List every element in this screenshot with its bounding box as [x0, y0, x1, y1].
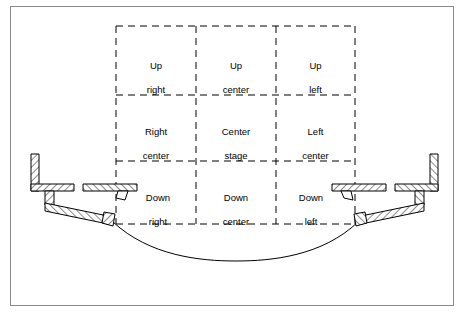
label-down-left-line2: left — [276, 216, 346, 228]
label-up-left-line1: Up — [276, 60, 355, 72]
label-left-center: Left center — [276, 114, 355, 174]
label-center-stage-line2: stage — [196, 150, 276, 162]
figure-canvas: Up right Up center Up left Right center … — [0, 0, 469, 332]
label-up-left-line2: left — [276, 84, 355, 96]
left-diagonal-beam — [45, 203, 108, 224]
label-up-right: Up right — [116, 48, 196, 108]
label-up-right-line1: Up — [116, 60, 196, 72]
label-up-center-line2: center — [196, 84, 276, 96]
label-down-center: Down center — [196, 180, 276, 240]
label-down-right-line1: Down — [120, 192, 196, 204]
label-down-center-line1: Down — [196, 192, 276, 204]
left-wall-horizontal-flat — [31, 184, 74, 191]
label-center-stage: Center stage — [196, 114, 276, 174]
label-right-center: Right center — [116, 114, 196, 174]
left-beam-end-block — [102, 212, 115, 226]
label-down-left-line1: Down — [276, 192, 346, 204]
right-beam-end-block — [354, 212, 367, 226]
label-left-center-line2: center — [276, 150, 355, 162]
label-down-right-line2: right — [120, 216, 196, 228]
label-up-center-line1: Up — [196, 60, 276, 72]
label-down-left: Down left — [276, 180, 346, 240]
label-up-left: Up left — [276, 48, 355, 108]
label-down-right: Down right — [120, 180, 196, 240]
right-wall-horizontal-flat — [395, 184, 438, 191]
right-diagonal-beam — [361, 203, 424, 224]
label-left-center-line1: Left — [276, 126, 355, 138]
label-up-right-line2: right — [116, 84, 196, 96]
label-up-center: Up center — [196, 48, 276, 108]
label-right-center-line2: center — [116, 150, 196, 162]
label-down-center-line2: center — [196, 216, 276, 228]
label-center-stage-line1: Center — [196, 126, 276, 138]
label-right-center-line1: Right — [116, 126, 196, 138]
